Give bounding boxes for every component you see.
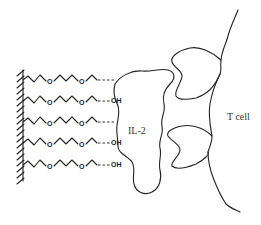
il2-label: IL-2 [128,125,146,136]
chain-bond [86,117,97,123]
oxygen-atom: O [79,99,84,106]
oxygen-atom: O [47,163,52,170]
chain-bond [86,96,97,102]
oxygen-atom: O [79,120,84,127]
chain-bond [54,75,78,81]
chain-bond [23,96,46,103]
chain-bond [23,160,46,167]
oxygen-atom: O [79,163,84,170]
chain-bond [86,138,97,144]
oxygen-atom: O [79,78,84,85]
chain-bond [86,75,97,81]
chain-bond [54,117,78,123]
t-cell-label: T cell [227,111,250,122]
chain-bond [54,96,78,102]
hydroxyl-terminal: OH [111,139,122,146]
diagram-graphics [0,0,261,225]
oxygen-atom: O [47,99,52,106]
oxygen-atom: O [79,141,84,148]
oxygen-atom: O [47,78,52,85]
oxygen-atom: O [47,120,52,127]
oxygen-atom: O [47,141,52,148]
chain-bond [23,117,46,124]
chain-bond [54,138,78,144]
chain-bond [23,138,46,145]
il2-surface-diagram: IL-2 T cell OOOOOHOOOOOHOOOH [0,0,261,225]
chain-bond [23,75,46,82]
receptor-lower [168,125,212,168]
receptor-upper [172,48,221,100]
surface [17,70,24,184]
hydroxyl-terminal: OH [111,97,122,104]
chain-bond [86,160,97,166]
hydroxyl-terminal: OH [111,161,122,168]
peg-chains [23,75,116,167]
chain-bond [54,160,78,166]
